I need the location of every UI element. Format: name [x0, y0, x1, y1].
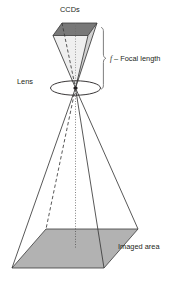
imaged-area-label: Imaged area [118, 242, 160, 251]
figure-container: CCDs Lens f – Focal length Imaged area [0, 0, 182, 281]
focal-length-label: – Focal length [114, 54, 160, 63]
upper-view-frustum [53, 23, 97, 88]
ccds-label: CCDs [60, 5, 80, 14]
lens-label: Lens [17, 77, 33, 86]
focal-point-node [73, 86, 77, 89]
focal-length-symbol: f [110, 54, 113, 63]
frustum-edge-back-right [76, 88, 139, 229]
lower-view-frustum [12, 88, 138, 268]
focal-length-bracket [102, 28, 106, 90]
camera-geometry-diagram: CCDs Lens f – Focal length Imaged area [0, 0, 182, 281]
